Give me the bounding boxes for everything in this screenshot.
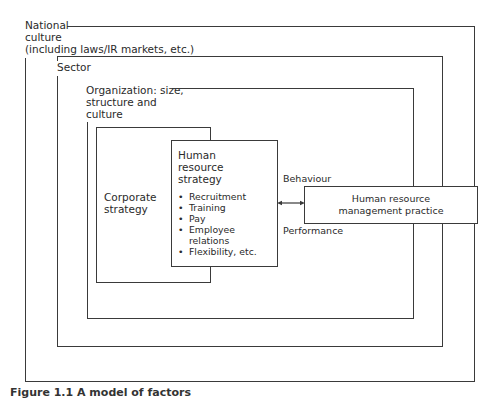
list-item: Recruitment — [178, 191, 274, 202]
national-culture-bottom-border — [25, 381, 475, 382]
hr-strategy-title-line-2: resource — [178, 161, 223, 173]
corporate-strategy-line-2: strategy — [104, 203, 157, 215]
hr-strategy-title-line-3: strategy — [178, 173, 223, 185]
list-item: Employee relations — [178, 224, 251, 246]
hr-strategy-list: Recruitment Training Pay Employee relati… — [178, 191, 274, 257]
national-culture-line-1: National — [25, 19, 194, 31]
list-item: Flexibility, etc. — [178, 246, 274, 257]
sector-label: Sector — [55, 61, 93, 73]
hrm-practice-line-1: Human resource — [305, 193, 477, 205]
sector-line-1: Sector — [57, 61, 91, 73]
hr-strategy-title: Human resource strategy — [178, 149, 223, 185]
national-culture-left-border — [25, 58, 26, 382]
corporate-strategy-label: Corporate strategy — [104, 191, 157, 215]
organization-line-3: culture — [86, 108, 184, 120]
national-culture-line-2: culture — [25, 31, 194, 43]
figure-caption: Figure 1.1 A model of factors — [10, 386, 191, 399]
hr-strategy-box: Human resource strategy Recruitment Trai… — [171, 140, 278, 267]
national-culture-label: National culture (including laws/IR mark… — [25, 19, 194, 55]
corporate-strategy-line-1: Corporate — [104, 191, 157, 203]
sector-left-border — [57, 76, 58, 347]
national-culture-line-3: (including laws/IR markets, etc.) — [25, 43, 194, 55]
organization-left-border — [87, 122, 88, 319]
behaviour-label: Behaviour — [283, 173, 331, 185]
national-culture-top-border — [67, 26, 475, 27]
organization-line-1: Organization: size, — [86, 84, 184, 96]
sector-bottom-border — [57, 346, 443, 347]
organization-label: Organization: size, structure and cultur… — [86, 84, 184, 120]
hrm-practice-label: Human resource management practice — [305, 193, 477, 216]
organization-top-border — [172, 88, 414, 89]
organization-line-2: structure and — [86, 96, 184, 108]
hr-strategy-title-line-1: Human — [178, 149, 223, 161]
bidirectional-arrow-icon — [277, 199, 305, 207]
list-item: Pay — [178, 213, 274, 224]
performance-label: Performance — [283, 225, 343, 237]
sector-top-border — [57, 56, 443, 57]
sector-corner-stub — [57, 56, 58, 61]
organization-bottom-border — [87, 318, 414, 319]
hrm-practice-line-2: management practice — [305, 205, 477, 217]
hrm-practice-box: Human resource management practice — [304, 186, 478, 224]
list-item: Training — [178, 202, 274, 213]
